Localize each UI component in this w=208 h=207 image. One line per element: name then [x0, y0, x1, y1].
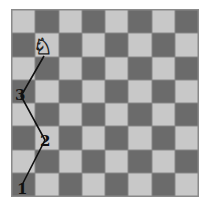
knight-glyph-icon: ♘	[33, 34, 53, 59]
path-label-3: 3	[15, 86, 25, 104]
path-label-2: 2	[40, 132, 50, 150]
knight-path-overlay: ♘ 3 2 1	[0, 0, 208, 207]
knight-path-line	[21, 56, 45, 185]
path-label-1: 1	[17, 180, 27, 198]
